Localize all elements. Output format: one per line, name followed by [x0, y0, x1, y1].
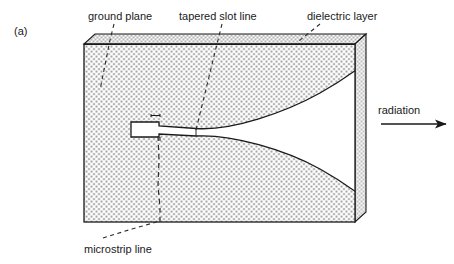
leader-microstrip-line	[103, 221, 160, 238]
label-tapered-slot-line: tapered slot line	[179, 10, 257, 22]
label-dielectric-layer: dielectric layer	[307, 10, 377, 22]
tapered-slot-antenna-diagram	[0, 0, 454, 264]
ground-plane-metallization	[84, 44, 356, 222]
label-ground-plane: ground plane	[88, 10, 152, 22]
panel-label: (a)	[14, 25, 27, 37]
dielectric-layer-top-face	[84, 34, 366, 44]
figure-root: (a) ground plane tapered slot line diele…	[0, 0, 454, 264]
label-microstrip-line: microstrip line	[84, 243, 152, 255]
label-radiation: radiation	[378, 104, 420, 116]
dielectric-layer-side-face	[355, 34, 366, 222]
